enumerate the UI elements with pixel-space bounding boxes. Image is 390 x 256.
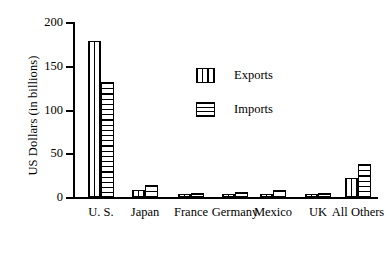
bar-group-france: [178, 193, 204, 197]
y-tick-mark: [66, 153, 73, 155]
bar-imports-0: [101, 82, 114, 198]
legend-item-imports: Imports: [196, 102, 273, 117]
y-tick-label: 100: [44, 103, 63, 116]
legend: Exports Imports: [196, 68, 273, 136]
category-label: All Others: [332, 205, 384, 220]
bar-group-mexico: [260, 190, 286, 197]
bar-imports-3: [235, 192, 248, 197]
bar-chart: US Dollars (in billions) 050100150200 U.…: [0, 0, 390, 256]
y-tick-label: 50: [51, 147, 64, 160]
bar-imports-4: [273, 190, 286, 197]
category-label: Germany: [212, 205, 259, 220]
y-axis-line: [73, 22, 75, 199]
bar-exports-5: [305, 194, 318, 197]
bar-group-uk: [305, 193, 331, 197]
bar-group-japan: [132, 185, 158, 197]
y-tick-label: 0: [57, 191, 63, 204]
bar-exports-2: [178, 194, 191, 197]
bar-group-all-others: [345, 164, 371, 197]
y-tick-label: 150: [44, 60, 63, 73]
bar-exports-0: [88, 41, 101, 197]
category-label: U. S.: [88, 205, 113, 220]
category-label: France: [174, 205, 208, 220]
y-tick-mark: [66, 66, 73, 68]
bar-group-u-s: [88, 41, 114, 197]
legend-label-exports: Exports: [234, 68, 273, 83]
bar-imports-2: [191, 193, 204, 197]
legend-item-exports: Exports: [196, 68, 273, 83]
bar-group-germany: [222, 192, 248, 197]
category-label: Mexico: [254, 205, 292, 220]
bar-imports-5: [318, 193, 331, 197]
x-axis-line: [73, 197, 378, 199]
y-tick-mark: [66, 22, 73, 24]
bar-exports-3: [222, 194, 235, 197]
bar-exports-1: [132, 190, 145, 197]
y-tick-label: 200: [44, 16, 63, 29]
category-label: UK: [309, 205, 327, 220]
y-tick-mark: [66, 110, 73, 112]
bar-imports-1: [145, 185, 158, 197]
legend-label-imports: Imports: [234, 102, 273, 117]
exports-swatch-icon: [196, 68, 215, 83]
bar-imports-6: [358, 164, 371, 197]
y-tick-mark: [66, 197, 73, 199]
y-axis-label: US Dollars (in billions): [26, 31, 41, 201]
bar-exports-6: [345, 178, 358, 197]
category-label: Japan: [131, 205, 159, 220]
bar-exports-4: [260, 194, 273, 197]
imports-swatch-icon: [196, 102, 215, 117]
